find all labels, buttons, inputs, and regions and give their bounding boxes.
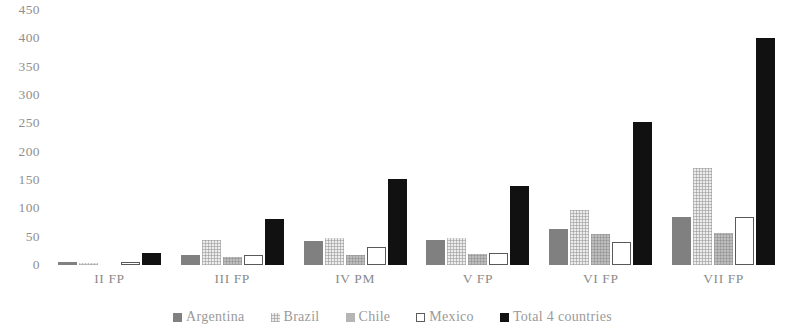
bar-total[interactable] (756, 38, 775, 265)
bar-cluster (181, 10, 284, 265)
bar-mexico[interactable] (489, 253, 508, 265)
bar-group (171, 10, 294, 265)
bar-mexico[interactable] (367, 247, 386, 265)
bar-total[interactable] (388, 179, 407, 265)
bar-brazil[interactable] (202, 240, 221, 266)
bar-brazil[interactable] (79, 263, 98, 265)
bar-groups (48, 10, 785, 265)
y-axis-tick-label: 50 (26, 230, 40, 244)
bar-chile[interactable] (346, 255, 365, 265)
y-axis-tick-label: 200 (19, 145, 40, 159)
y-axis-tick-label: 300 (19, 88, 40, 102)
x-axis: II FPIII FPIV PMV FPVI FPVII FP (48, 266, 785, 292)
x-axis-tick-label: VII FP (662, 266, 785, 292)
bar-group (48, 10, 171, 265)
y-axis-tick-label: 400 (19, 32, 40, 46)
x-axis-tick-label: III FP (171, 266, 294, 292)
bar-cluster (304, 10, 407, 265)
y-axis-tick-label: 450 (19, 3, 40, 17)
legend-swatch-total-icon (500, 313, 509, 322)
legend-label: Argentina (186, 310, 244, 324)
bar-mexico[interactable] (244, 255, 263, 265)
legend-label: Brazil (284, 310, 320, 324)
bar-total[interactable] (633, 122, 652, 265)
bar-argentina[interactable] (672, 217, 691, 265)
bar-argentina[interactable] (549, 229, 568, 265)
bar-brazil[interactable] (447, 238, 466, 265)
bar-group (662, 10, 785, 265)
bar-mexico[interactable] (735, 217, 754, 265)
legend-swatch-mexico-icon (416, 313, 425, 322)
bar-group (539, 10, 662, 265)
bar-chile[interactable] (223, 257, 242, 266)
bar-cluster (426, 10, 529, 265)
bar-argentina[interactable] (58, 262, 77, 265)
bar-total[interactable] (265, 219, 284, 265)
x-axis-tick-label: IV PM (294, 266, 417, 292)
bar-mexico[interactable] (121, 262, 140, 265)
y-axis-tick-label: 150 (19, 173, 40, 187)
chart-legend: ArgentinaBrazilChileMexicoTotal 4 countr… (0, 305, 785, 329)
legend-swatch-chile-icon (346, 313, 355, 322)
legend-item-mexico[interactable]: Mexico (416, 310, 474, 324)
legend-item-chile[interactable]: Chile (346, 310, 391, 324)
bar-chile[interactable] (468, 254, 487, 265)
y-axis: 450400350300250200150100500 (0, 10, 44, 265)
bar-group (416, 10, 539, 265)
legend-swatch-argentina-icon (173, 313, 182, 322)
legend-label: Mexico (429, 310, 474, 324)
x-axis-tick-label: II FP (48, 266, 171, 292)
bar-total[interactable] (142, 253, 161, 265)
y-axis-tick-label: 350 (19, 60, 40, 74)
x-axis-tick-label: V FP (416, 266, 539, 292)
y-axis-tick-label: 250 (19, 117, 40, 131)
bar-cluster (672, 10, 775, 265)
bar-chile[interactable] (714, 233, 733, 265)
legend-label: Total 4 countries (513, 310, 612, 324)
bar-chile[interactable] (591, 234, 610, 265)
bar-argentina[interactable] (181, 255, 200, 265)
bar-brazil[interactable] (693, 168, 712, 265)
legend-item-total[interactable]: Total 4 countries (500, 310, 612, 324)
legend-item-argentina[interactable]: Argentina (173, 310, 244, 324)
bar-argentina[interactable] (304, 241, 323, 265)
bar-brazil[interactable] (570, 210, 589, 265)
bar-brazil[interactable] (325, 238, 344, 265)
bar-argentina[interactable] (426, 240, 445, 265)
bar-group (294, 10, 417, 265)
bar-total[interactable] (510, 186, 529, 265)
legend-swatch-brazil-icon (271, 313, 280, 322)
bar-mexico[interactable] (612, 242, 631, 265)
bar-cluster (58, 10, 161, 265)
x-axis-tick-label: VI FP (539, 266, 662, 292)
y-axis-tick-label: 0 (33, 258, 40, 272)
plot-area (48, 10, 785, 265)
y-axis-tick-label: 100 (19, 202, 40, 216)
bar-cluster (549, 10, 652, 265)
bar-chart: 450400350300250200150100500 II FPIII FPI… (0, 0, 785, 336)
legend-item-brazil[interactable]: Brazil (271, 310, 320, 324)
legend-label: Chile (359, 310, 391, 324)
